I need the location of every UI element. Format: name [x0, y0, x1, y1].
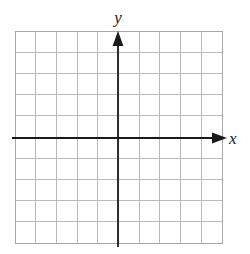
- x-axis-label: x: [229, 130, 245, 147]
- y-axis-label: y: [110, 9, 126, 26]
- coordinate-plane-svg: [0, 0, 250, 254]
- coordinate-grid-figure: y x: [0, 0, 250, 254]
